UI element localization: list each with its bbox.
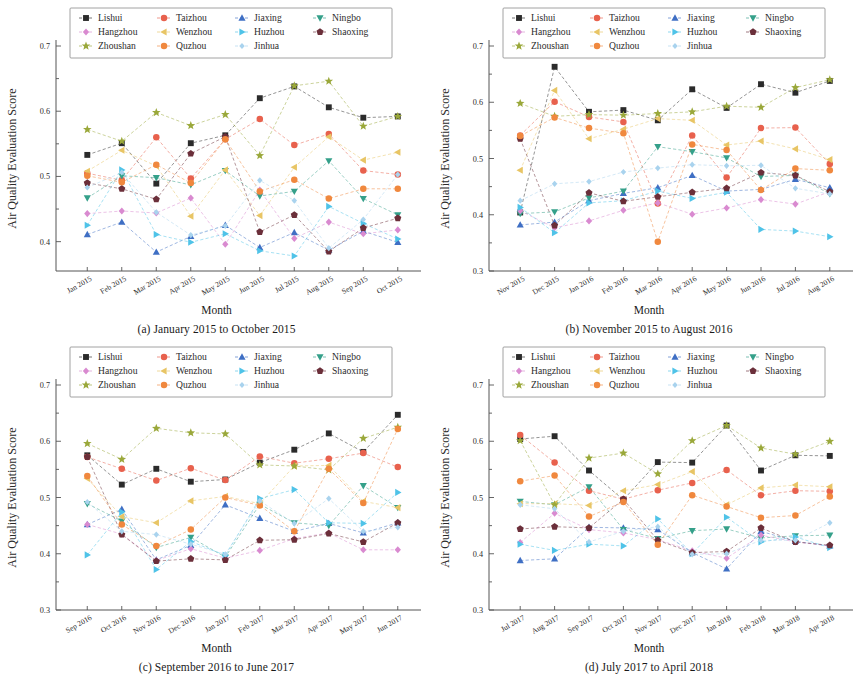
data-point-marker [758, 196, 764, 203]
legend-label: Wenzhou [609, 365, 645, 376]
legend-label: Hangzhou [531, 26, 571, 37]
data-point-marker [723, 147, 730, 154]
data-point-marker [757, 444, 766, 452]
data-point-marker [326, 496, 331, 502]
data-point-marker [826, 437, 835, 445]
data-point-marker [585, 524, 592, 531]
series-connector [520, 426, 830, 505]
y-tick-label: 0.4 [473, 211, 483, 220]
legend-label: Shaoxing [765, 26, 801, 37]
data-point-marker [394, 214, 401, 221]
legend-label: Zhoushan [98, 40, 136, 51]
data-point-marker [360, 546, 366, 553]
x-tick-label: Feb 2017 [237, 613, 266, 635]
data-point-marker [395, 489, 401, 496]
x-tick-label: Nov 2015 [496, 274, 527, 297]
series-connector [520, 527, 830, 569]
series-connector [87, 490, 398, 570]
data-point-marker [757, 524, 764, 531]
data-point-marker [827, 493, 834, 500]
data-point-marker [551, 98, 558, 105]
y-axis-title: Air Quality Evaluation Score [438, 88, 452, 228]
data-point-marker [360, 538, 367, 545]
y-axis-title: Air Quality Evaluation Score [5, 427, 19, 567]
data-point-marker [688, 107, 697, 115]
legend-b: LishuiTaizhouJiaxingNingboHangzhouWenzho… [503, 8, 825, 58]
data-point-marker [326, 455, 333, 462]
data-point-marker [118, 218, 125, 224]
data-point-marker [620, 130, 627, 137]
x-tick-label: Mar 2017 [270, 613, 300, 636]
legend-label: Huzhou [254, 365, 285, 376]
data-point-marker [326, 430, 332, 436]
x-tick-label: Apr 2016 [669, 274, 699, 296]
data-point-marker [359, 122, 368, 130]
panel-caption-b: (b) November 2015 to August 2016 [433, 323, 865, 335]
data-point-marker [620, 119, 627, 126]
data-point-marker [257, 95, 263, 101]
data-point-marker [119, 466, 126, 473]
data-point-marker [586, 468, 592, 474]
series-connector [520, 90, 830, 170]
data-point-marker [360, 196, 367, 202]
legend-marker-icon [161, 43, 168, 50]
data-point-marker [551, 459, 558, 466]
y-tick-label: 0.6 [473, 437, 483, 446]
data-point-marker [517, 133, 524, 140]
data-point-marker [326, 104, 332, 110]
y-tick-label: 0.3 [473, 606, 483, 615]
x-tick-label: Apr 2017 [305, 613, 335, 635]
data-point-marker [119, 179, 126, 186]
data-point-marker [792, 165, 799, 172]
data-point-marker [84, 473, 91, 480]
data-point-marker [360, 483, 367, 489]
data-point-marker [222, 477, 229, 484]
legend-label: Jiaxing [687, 12, 715, 23]
data-point-marker [620, 207, 626, 214]
data-point-marker [291, 142, 298, 149]
series-jinhua [517, 162, 832, 204]
series-connector [520, 487, 830, 539]
data-point-marker [359, 434, 368, 442]
data-point-marker [153, 181, 159, 187]
x-tick-label: Jun 2016 [739, 274, 768, 296]
data-point-marker [326, 219, 332, 226]
data-point-marker [395, 412, 401, 418]
data-point-marker [827, 520, 832, 526]
legend-label: Quzhou [176, 40, 207, 51]
data-point-marker [723, 503, 730, 510]
legend-label: Zhoushan [98, 379, 136, 390]
data-point-marker [291, 528, 298, 535]
data-point-marker [551, 472, 558, 479]
series-connector [520, 80, 830, 117]
data-point-marker [688, 117, 694, 124]
x-tick-label: Aug 2015 [304, 274, 335, 297]
series-connector [87, 499, 398, 555]
legend-label: Jinhua [687, 40, 713, 51]
series-connector [520, 102, 830, 204]
y-tick-label: 0.3 [40, 606, 50, 615]
legend-marker-icon [594, 15, 601, 22]
x-tick-label: Feb 2016 [600, 274, 629, 296]
data-point-marker [257, 116, 264, 123]
data-point-marker [689, 132, 696, 139]
legend-label: Ningbo [332, 12, 361, 23]
series-jiaxing [84, 501, 402, 562]
series-connector [520, 505, 830, 555]
data-point-marker [222, 494, 229, 501]
data-point-marker [586, 217, 592, 224]
data-point-marker [326, 203, 332, 210]
x-tick-label: Jul 2016 [774, 274, 801, 295]
data-point-marker [119, 482, 125, 488]
panel-caption-a: (a) January 2015 to October 2015 [0, 323, 433, 335]
data-point-marker [827, 233, 833, 240]
data-point-marker [688, 468, 694, 475]
data-point-marker [325, 530, 332, 537]
series-wenzhou [516, 87, 832, 174]
data-point-marker [257, 547, 263, 554]
data-point-marker [586, 179, 591, 185]
y-tick-label: 0.7 [473, 381, 483, 390]
data-point-marker [758, 514, 765, 521]
y-tick-label: 0.7 [40, 42, 50, 51]
data-point-marker [723, 185, 730, 192]
